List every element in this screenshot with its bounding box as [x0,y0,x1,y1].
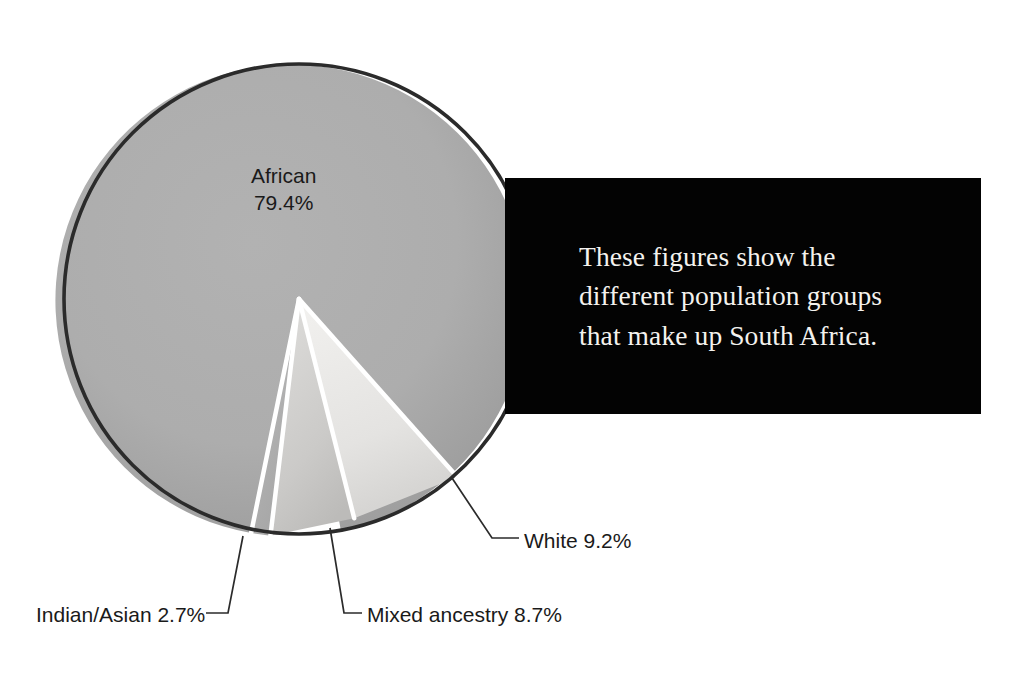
caption-panel: These figures show the different populat… [505,178,981,414]
caption-text: These figures show the different populat… [579,237,882,354]
leader-line-indian-asian [206,536,243,613]
pie-label-indian-asian: Indian/Asian 2.7% [36,604,205,625]
pie-label-mixed-ancestry: Mixed ancestry 8.7% [367,604,562,625]
leader-line-white [452,478,519,538]
pie-chart-figure: These figures show the different populat… [0,0,1033,674]
pie-label-white: White 9.2% [524,530,631,551]
leader-line-mixed-ancestry [330,528,362,613]
pie-label-african: African 79.4% [251,163,316,217]
